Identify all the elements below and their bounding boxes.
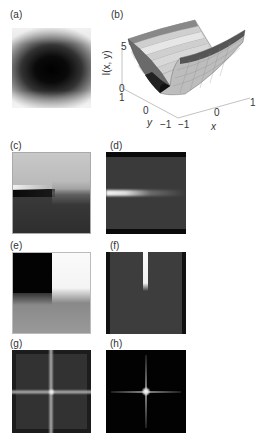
panel-label-c: (c)	[10, 141, 22, 151]
panel-label-a: (a)	[10, 10, 22, 20]
x-tick-1: 1	[250, 98, 256, 108]
panel-label-h: (h)	[110, 339, 122, 349]
panel-c-image	[12, 152, 91, 234]
panel-label-g: (g)	[10, 339, 22, 349]
y-axis-label: y	[147, 118, 152, 128]
panel-g-image	[12, 350, 91, 433]
panel-e-image	[12, 252, 91, 334]
x-tick-0: 0	[214, 108, 220, 118]
x-axis-label: x	[211, 122, 216, 132]
panel-h-image	[106, 350, 186, 433]
x-tick-minus1: −1	[178, 120, 189, 130]
panel-b-surface-plot: I(x, y) 5 0 1 0 y −1 −1 x 0 1	[100, 0, 265, 140]
panel-label-d: (d)	[110, 141, 122, 151]
y-tick-1: 1	[119, 93, 125, 103]
panel-d-image	[106, 152, 186, 234]
z-axis-label: I(x, y)	[102, 51, 112, 76]
panel-f-image	[106, 252, 186, 334]
z-tick-5: 5	[121, 42, 127, 52]
y-tick-0: 0	[143, 106, 149, 116]
panel-label-f: (f)	[110, 241, 119, 251]
y-tick-minus1: −1	[160, 120, 171, 130]
panel-label-e: (e)	[10, 241, 22, 251]
panel-a-image	[12, 28, 91, 108]
